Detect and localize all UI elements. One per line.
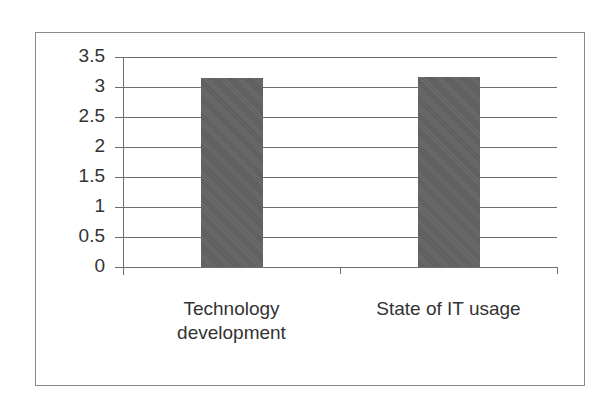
- gridline: [115, 207, 557, 208]
- x-axis: [115, 267, 557, 268]
- y-axis: [123, 57, 124, 275]
- x-axis-tick: [340, 267, 341, 274]
- x-category-label-line: Technology: [123, 297, 340, 321]
- gridline: [115, 87, 557, 88]
- y-tick-label: 2: [45, 136, 105, 156]
- y-tick-label: 3: [45, 76, 105, 96]
- y-tick-label: 0.5: [45, 226, 105, 246]
- bar-chart: 00.511.522.533.5TechnologydevelopmentSta…: [0, 0, 609, 404]
- y-tick-label: 3.5: [45, 46, 105, 66]
- gridline: [115, 177, 557, 178]
- bar-1: [201, 78, 263, 267]
- y-tick-label: 1.5: [45, 166, 105, 186]
- x-category-label: State of IT usage: [340, 297, 557, 321]
- x-category-label-line: State of IT usage: [340, 297, 557, 321]
- y-tick-label: 1: [45, 196, 105, 216]
- x-category-label-line: development: [123, 321, 340, 345]
- x-axis-tick: [557, 267, 558, 274]
- gridline: [115, 147, 557, 148]
- gridline: [115, 117, 557, 118]
- x-category-label: Technologydevelopment: [123, 297, 340, 345]
- gridline: [115, 237, 557, 238]
- y-tick-label: 2.5: [45, 106, 105, 126]
- gridline: [115, 57, 557, 58]
- x-axis-tick: [123, 267, 124, 274]
- bar-2: [418, 77, 480, 267]
- y-tick-label: 0: [45, 256, 105, 276]
